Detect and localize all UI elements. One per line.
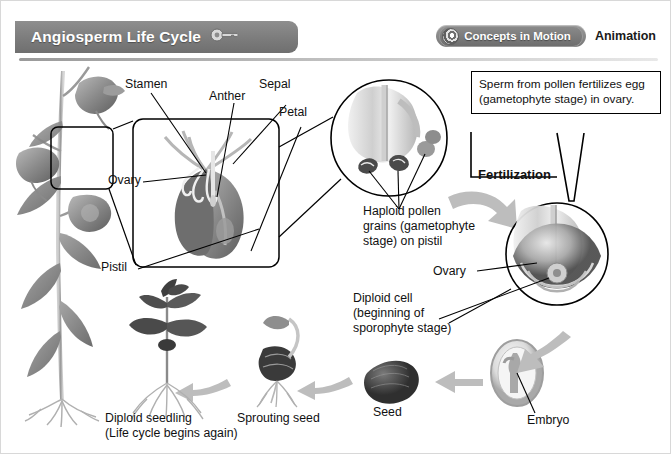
- flower-label-leaders: [138, 93, 301, 269]
- label-ovary: Ovary: [108, 173, 141, 188]
- callout-diploid-cell: Diploid cell (beginning of sporophyte st…: [353, 291, 451, 336]
- label-stamen: Stamen: [125, 77, 167, 92]
- flower-magnified-frame: [133, 119, 279, 267]
- magnified-flower-illustration: [165, 131, 251, 259]
- arrow-to-sprouting-seed: [175, 379, 231, 402]
- callout-sperm-fertilizes: Sperm from pollen fertilizes egg (gameto…: [471, 71, 661, 114]
- label-seed: Seed: [373, 405, 402, 420]
- figure-canvas: Angiosperm Life Cycle Concepts in Motion…: [0, 0, 671, 454]
- label-ovary-detail: Ovary: [433, 264, 466, 279]
- motion-globe-icon: [442, 28, 459, 45]
- sprouting-seed-illustration: [257, 316, 298, 407]
- callout-haploid-pollen: Haploid pollen grains (gametophyte stage…: [363, 204, 475, 249]
- label-sepal: Sepal: [259, 77, 290, 92]
- arrow-to-embryo: [517, 331, 571, 373]
- label-pistil: Pistil: [101, 260, 127, 275]
- whole-plant-illustration: [16, 67, 125, 427]
- animation-label: Animation: [595, 29, 656, 43]
- embryo-label-leader: [517, 373, 535, 413]
- flower-inset-box: [51, 127, 113, 189]
- embryo-illustration: [491, 340, 543, 406]
- arrow-seed-from-embryo: [435, 371, 483, 393]
- label-diploid-seedling: Diploid seedling (Life cycle begins agai…: [105, 411, 238, 441]
- concepts-in-motion-badge[interactable]: Concepts in Motion: [436, 25, 586, 47]
- seed-illustration: [364, 361, 419, 404]
- label-sprouting-seed: Sprouting seed: [237, 411, 320, 426]
- key-icon: [210, 28, 240, 46]
- concepts-badge-label: Concepts in Motion: [464, 30, 580, 42]
- diploid-cell-leader: [449, 289, 511, 323]
- label-fertilization: Fertilization: [478, 167, 551, 183]
- inset-connector-lines: [109, 121, 136, 265]
- label-anther: Anther: [209, 89, 245, 104]
- header-divider: [19, 58, 658, 61]
- page-title: Angiosperm Life Cycle: [31, 28, 201, 46]
- figure-title-banner: Angiosperm Life Cycle: [15, 21, 298, 53]
- arrow-to-seed: [297, 377, 353, 400]
- label-embryo: Embryo: [527, 413, 569, 428]
- header-right-group: Concepts in Motion Animation: [436, 25, 656, 47]
- diploid-seedling-illustration: [129, 279, 207, 419]
- illustration-layer: [1, 1, 671, 454]
- label-petal: Petal: [279, 105, 307, 120]
